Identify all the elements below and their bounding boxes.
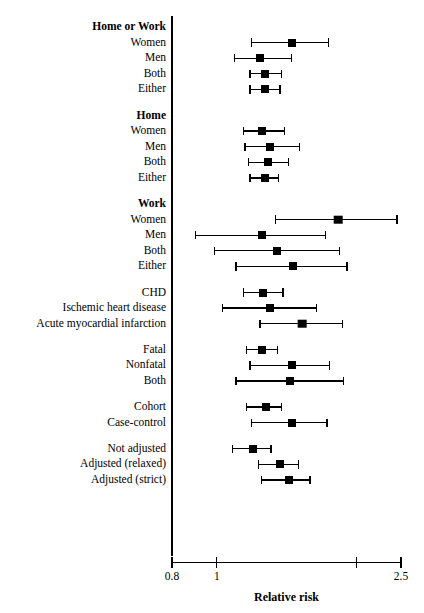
point-estimate-marker xyxy=(273,247,281,255)
row-label: Men xyxy=(145,141,166,153)
ci-lower-cap xyxy=(249,174,250,182)
ci-lower-cap xyxy=(259,320,260,328)
ci-lower-cap xyxy=(261,476,262,484)
ci-lower-cap xyxy=(251,38,252,46)
ci-upper-cap xyxy=(278,174,279,182)
ci-lower-cap xyxy=(248,158,249,166)
row-label: Not adjusted xyxy=(108,443,166,455)
point-estimate-marker xyxy=(289,262,297,270)
ci-lower-cap xyxy=(258,460,259,468)
ci-upper-cap xyxy=(396,215,397,223)
ci-upper-cap xyxy=(279,85,280,93)
point-estimate-marker xyxy=(285,476,293,484)
ci-lower-cap xyxy=(235,262,236,270)
ci-upper-cap xyxy=(288,158,289,166)
x-axis-tick-label: 0.8 xyxy=(165,571,179,583)
forest-plot: Home or WorkWomenMenBothEitherHomeWomenM… xyxy=(0,0,424,613)
x-axis-tick xyxy=(171,557,172,568)
row-label: Both xyxy=(144,375,166,387)
row-label: CHD xyxy=(142,287,166,299)
ci-upper-cap xyxy=(298,460,299,468)
row-label: Adjusted (strict) xyxy=(91,474,166,486)
row-label: Men xyxy=(145,229,166,241)
group-heading-home-or-work: Home or Work xyxy=(92,21,166,33)
x-axis-title: Relative risk xyxy=(254,590,319,605)
ci-upper-cap xyxy=(309,476,310,484)
ci-lower-cap xyxy=(249,70,250,78)
ci-upper-cap xyxy=(328,38,329,46)
row-label: Women xyxy=(131,125,166,137)
axis-spine xyxy=(171,16,172,556)
ci-lower-cap xyxy=(232,445,233,453)
point-estimate-marker xyxy=(259,289,267,297)
ci-lower-cap xyxy=(243,127,244,135)
point-estimate-marker xyxy=(276,460,284,468)
ci-lower-cap xyxy=(251,419,252,427)
ci-upper-cap xyxy=(326,419,327,427)
ci-lower-cap xyxy=(235,377,236,385)
ci-upper-cap xyxy=(299,143,300,151)
group-heading-work: Work xyxy=(138,198,166,210)
ci-upper-cap xyxy=(316,304,317,312)
row-label: Ischemic heart disease xyxy=(63,302,166,314)
ci-upper-cap xyxy=(282,288,283,296)
ci-upper-cap xyxy=(291,54,292,62)
ci-lower-cap xyxy=(246,403,247,411)
point-estimate-marker xyxy=(256,54,264,62)
point-estimate-marker xyxy=(262,403,270,411)
ci-upper-cap xyxy=(325,231,326,239)
row-label: Either xyxy=(138,172,166,184)
x-axis-tick xyxy=(356,557,357,568)
point-estimate-marker xyxy=(261,85,269,93)
x-axis-tick xyxy=(400,557,401,568)
row-label: Both xyxy=(144,157,166,169)
ci-upper-cap xyxy=(329,361,330,369)
point-estimate-marker xyxy=(288,361,296,369)
row-label: Women xyxy=(131,214,166,226)
point-estimate-marker xyxy=(258,127,266,135)
ci-lower-cap xyxy=(234,54,235,62)
ci-lower-cap xyxy=(246,346,247,354)
row-label: Nonfatal xyxy=(126,360,166,372)
x-axis-tick-label: 1 xyxy=(214,571,220,583)
row-label: Acute myocardial infarction xyxy=(36,318,166,330)
point-estimate-marker xyxy=(298,319,307,328)
row-label: Men xyxy=(145,52,166,64)
row-label: Either xyxy=(138,261,166,273)
point-estimate-marker xyxy=(286,377,294,385)
point-estimate-marker xyxy=(266,304,274,312)
ci-upper-cap xyxy=(281,70,282,78)
ci-upper-cap xyxy=(346,262,347,270)
point-estimate-marker xyxy=(266,143,274,151)
ci-lower-cap xyxy=(244,143,245,151)
row-label: Adjusted (relaxed) xyxy=(80,459,166,471)
row-label: Either xyxy=(138,84,166,96)
point-estimate-marker xyxy=(258,231,266,239)
row-label: Both xyxy=(144,245,166,257)
ci-upper-cap xyxy=(281,403,282,411)
ci-lower-cap xyxy=(243,288,244,296)
ci-upper-cap xyxy=(270,445,271,453)
ci-lower-cap xyxy=(195,231,196,239)
point-estimate-marker xyxy=(249,445,257,453)
row-label: Fatal xyxy=(143,344,166,356)
ci-lower-cap xyxy=(249,361,250,369)
point-estimate-marker xyxy=(288,39,296,47)
ci-upper-cap xyxy=(343,377,344,385)
ci-upper-cap xyxy=(284,127,285,135)
ci-lower-cap xyxy=(249,85,250,93)
row-label: Both xyxy=(144,68,166,80)
ci-upper-cap xyxy=(342,320,343,328)
x-axis-tick-label: 2.5 xyxy=(394,571,408,583)
ci-lower-cap xyxy=(214,247,215,255)
point-estimate-marker xyxy=(264,158,272,166)
ci-lower-cap xyxy=(222,304,223,312)
ci-upper-cap xyxy=(277,346,278,354)
point-estimate-marker xyxy=(258,346,266,354)
group-heading-home: Home xyxy=(137,110,166,122)
point-estimate-marker xyxy=(334,215,343,224)
point-estimate-marker xyxy=(261,70,269,78)
ci-upper-cap xyxy=(339,247,340,255)
x-axis-tick xyxy=(216,557,217,568)
row-label: Case-control xyxy=(107,417,166,429)
